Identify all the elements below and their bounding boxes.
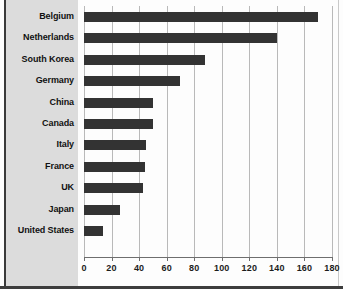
bar [84, 98, 153, 108]
x-axis-tick-label: 120 [242, 263, 258, 273]
bar [84, 76, 180, 86]
bar [84, 205, 120, 215]
x-axis-tick-label: 140 [269, 263, 285, 273]
category-label: Germany [36, 75, 74, 85]
x-axis-tick-label: 60 [161, 263, 171, 273]
x-axis-tick-label: 0 [81, 263, 86, 273]
bar [84, 183, 143, 193]
bar [84, 12, 318, 22]
category-label: Japan [48, 204, 74, 214]
x-axis-tick [112, 257, 113, 261]
gridline [277, 6, 278, 257]
x-axis-tick-label: 160 [297, 263, 313, 273]
x-axis-tick [249, 257, 250, 261]
category-label: Netherlands [23, 32, 74, 42]
x-axis-tick [304, 257, 305, 261]
gridline [304, 6, 305, 257]
bar [84, 226, 103, 236]
x-axis-tick-label: 180 [324, 263, 340, 273]
x-axis-tick-label: 40 [134, 263, 144, 273]
category-label: Italy [56, 139, 74, 149]
plot-area: 020406080100120140160180 [78, 0, 338, 286]
bar [84, 55, 205, 65]
x-axis-line [84, 257, 332, 258]
chart-frame-right-border [338, 0, 339, 287]
category-label: Belgium [39, 11, 74, 21]
x-axis-tick [332, 257, 333, 261]
category-label: France [45, 161, 74, 171]
x-axis-tick [139, 257, 140, 261]
bar [84, 119, 153, 129]
gridline [167, 6, 168, 257]
bar [84, 140, 146, 150]
x-axis-tick [277, 257, 278, 261]
category-label-panel: BelgiumNetherlandsSouth KoreaGermanyChin… [6, 0, 78, 286]
x-axis-tick [167, 257, 168, 261]
bar-chart-figure: BelgiumNetherlandsSouth KoreaGermanyChin… [0, 0, 343, 298]
category-label: Canada [42, 118, 74, 128]
x-axis-tick [222, 257, 223, 261]
chart-outer-margin [0, 289, 343, 298]
x-axis-tick-label: 100 [214, 263, 230, 273]
category-label: United States [18, 225, 74, 235]
x-axis-tick [194, 257, 195, 261]
gridline [332, 6, 333, 257]
gridline [139, 6, 140, 257]
gridline [222, 6, 223, 257]
gridline [84, 6, 85, 257]
category-label: UK [61, 182, 74, 192]
bar [84, 162, 145, 172]
x-axis-tick-label: 20 [106, 263, 116, 273]
x-axis-tick [84, 257, 85, 261]
category-label: South Korea [22, 54, 74, 64]
gridline [112, 6, 113, 257]
category-label: China [49, 97, 74, 107]
bar [84, 33, 277, 43]
gridline [249, 6, 250, 257]
gridline [194, 6, 195, 257]
x-axis-tick-label: 80 [189, 263, 199, 273]
